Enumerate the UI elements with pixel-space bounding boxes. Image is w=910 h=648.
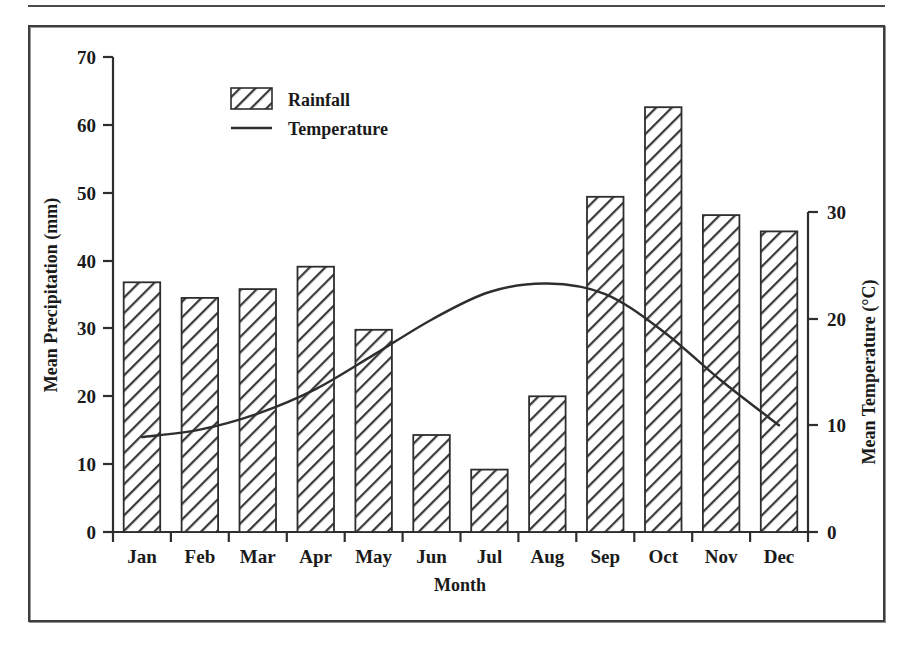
left-tick-label: 20 [77,386,96,407]
bar-jul [471,470,508,532]
x-tick-label-jun: Jun [416,546,447,567]
climate-chart-svg: 0 10 20 30 40 50 60 70 Mean Precipitatio… [0,0,910,648]
right-axis-ticks [808,212,818,532]
legend-swatch-rainfall [231,88,272,109]
right-tick-label: 10 [827,415,846,436]
left-tick-label: 0 [87,522,97,543]
temperature-line-series [142,283,779,437]
chart-legend: Rainfall Temperature [231,88,388,139]
right-tick-label: 20 [827,309,846,330]
left-axis-tick-labels: 0 10 20 30 40 50 60 70 [77,47,96,543]
x-tick-label-oct: Oct [648,546,678,567]
left-tick-label: 60 [77,115,96,136]
x-axis-ticks [113,532,808,542]
bar-aug [529,396,566,532]
bar-jun [413,435,450,532]
left-tick-label: 50 [77,183,96,204]
bar-jan [124,282,161,532]
right-axis-tick-labels: 0 10 20 30 [827,202,846,543]
x-tick-label-jan: Jan [127,546,157,567]
bar-nov [703,215,740,532]
x-tick-label-mar: Mar [240,546,276,567]
bar-series-rainfall [124,107,798,532]
x-tick-label-dec: Dec [764,546,795,567]
bar-mar [240,289,277,532]
left-axis-ticks [103,57,113,532]
left-tick-label: 30 [77,318,96,339]
x-tick-label-apr: Apr [299,546,332,567]
bar-dec [761,231,798,532]
right-tick-label: 0 [827,522,837,543]
left-tick-label: 10 [77,454,96,475]
bar-apr [298,267,335,532]
x-tick-label-nov: Nov [705,546,738,567]
x-tick-label-may: May [355,546,392,567]
x-tick-label-sep: Sep [591,546,621,567]
x-tick-label-feb: Feb [185,546,216,567]
left-axis-title: Mean Precipitation (mm) [41,198,62,393]
figure-page: 0 10 20 30 40 50 60 70 Mean Precipitatio… [0,0,910,648]
bar-feb [182,298,219,532]
legend-label-temperature: Temperature [288,119,388,139]
bar-sep [587,197,624,532]
x-axis-tick-labels: JanFebMarAprMayJunJulAugSepOctNovDec [127,546,794,567]
left-tick-label: 70 [77,47,96,68]
right-tick-label: 30 [827,202,846,223]
x-tick-label-jul: Jul [477,546,502,567]
left-tick-label: 40 [77,251,96,272]
x-axis-title: Month [434,575,486,595]
right-axis-title: Mean Temperature (°C) [859,280,880,465]
chart-plot-area: 0 10 20 30 40 50 60 70 Mean Precipitatio… [0,0,910,648]
bar-may [355,330,392,532]
bar-oct [645,107,682,532]
legend-label-rainfall: Rainfall [288,90,350,110]
x-tick-label-aug: Aug [531,546,565,567]
